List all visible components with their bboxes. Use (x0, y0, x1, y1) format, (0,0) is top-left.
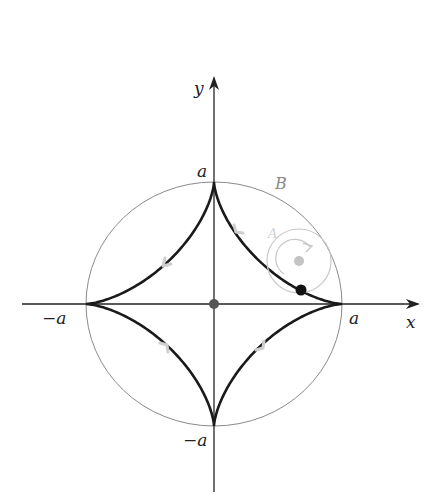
tick-label-neg-x: −a (42, 308, 66, 328)
tracing-point (296, 285, 307, 296)
arrow-mark-upper-right (234, 225, 243, 233)
astroid-diagram: y x a −a −a a B A (0, 0, 435, 500)
arrow-mark-lower-left (160, 343, 168, 352)
y-axis-label: y (193, 78, 204, 98)
origin-dot (209, 299, 219, 309)
tick-label-pos-x: a (349, 308, 359, 328)
rolling-circle-label: A (267, 226, 277, 241)
outer-circle-label: B (274, 174, 287, 193)
rotation-arrowhead-icon (303, 243, 312, 252)
tick-label-pos-y: a (197, 161, 207, 181)
tick-label-neg-y: −a (183, 430, 207, 450)
rolling-circle-center-dot (294, 256, 304, 266)
x-axis-label: x (406, 312, 416, 332)
rotation-arc-icon (276, 239, 310, 274)
direction-arrows (160, 225, 264, 352)
